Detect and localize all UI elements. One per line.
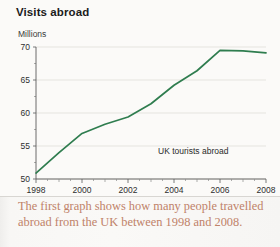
x-tick-label: 1998 — [27, 185, 46, 195]
figure-card: Visits abroad Millions 50556065701998200… — [0, 0, 280, 197]
x-tick-label: 2000 — [73, 185, 92, 195]
x-tick-label: 2004 — [165, 185, 184, 195]
chart-plot-area: 5055606570199820002002200420062008 — [0, 0, 280, 196]
y-tick-label: 65 — [21, 75, 31, 85]
y-tick-label: 50 — [21, 174, 31, 184]
y-tick-label: 60 — [21, 108, 31, 118]
x-tick-label: 2008 — [257, 185, 276, 195]
series-line-uk-tourists-abroad — [36, 50, 266, 173]
x-tick-label: 2006 — [211, 185, 230, 195]
y-tick-label: 70 — [21, 42, 31, 52]
line-chart: 5055606570199820002002200420062008 — [0, 0, 280, 196]
x-tick-label: 2002 — [119, 185, 138, 195]
y-tick-label: 55 — [21, 141, 31, 151]
legend-label-uk-tourists-abroad: UK tourists abroad — [158, 146, 228, 156]
figure-caption: The first graph shows how many people tr… — [18, 199, 270, 230]
